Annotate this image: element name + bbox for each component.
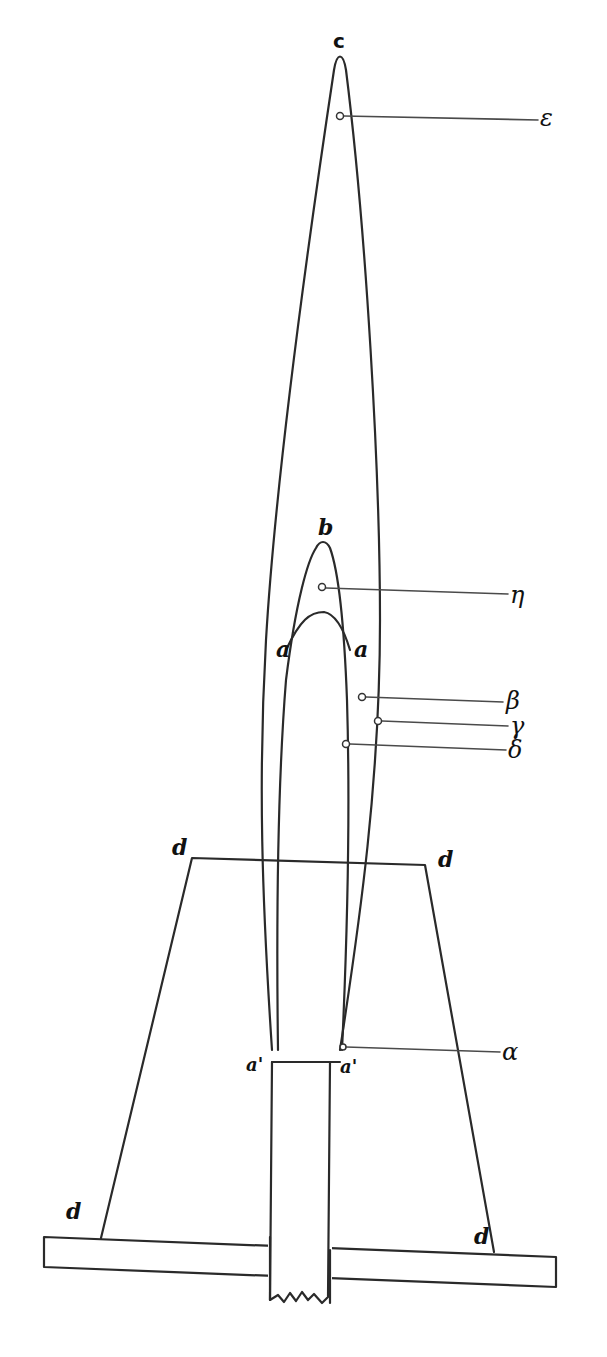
label-d-top-left: d — [172, 836, 187, 858]
label-d-bottom-right: d — [474, 1225, 489, 1247]
pointer-eta — [319, 584, 509, 595]
pointer-alpha — [340, 1044, 500, 1052]
label-d-bottom-left: d — [66, 1200, 81, 1222]
label-a-prime-left: a' — [246, 1056, 263, 1074]
pointer-beta — [359, 694, 504, 703]
pointer-delta — [343, 741, 507, 751]
label-delta: δ — [508, 738, 522, 762]
label-a-right: a — [354, 638, 368, 660]
label-b: b — [318, 516, 333, 538]
label-alpha: α — [502, 1040, 518, 1064]
label-beta: β — [506, 689, 520, 713]
label-c: c — [333, 31, 345, 51]
pointer-epsilon — [337, 113, 539, 121]
label-gamma: γ — [510, 714, 524, 738]
outer-flame-envelope — [262, 57, 380, 1051]
inner-cone — [277, 542, 348, 1050]
label-d-top-right: d — [438, 848, 453, 870]
flame-diagram — [0, 0, 607, 1357]
pointer-gamma — [375, 718, 509, 727]
label-a-prime-right: a' — [340, 1058, 357, 1076]
stand-outline — [101, 858, 494, 1252]
label-eta: η — [510, 583, 524, 607]
label-a-left: a — [276, 638, 290, 660]
label-epsilon: ε — [540, 106, 553, 130]
